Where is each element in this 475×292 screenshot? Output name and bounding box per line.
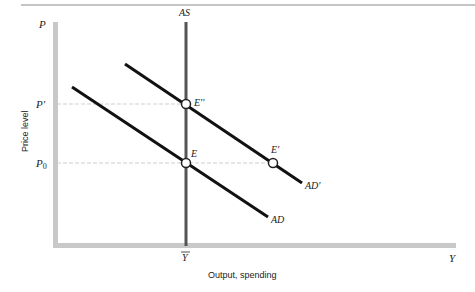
ad-label: AD (270, 214, 285, 225)
ybar-tick: Y (182, 252, 189, 263)
ad-as-diagram: P AS P' P0 E'' E E' AD' AD Y Y Output, s… (0, 0, 475, 292)
ad-prime-label: AD' (304, 180, 321, 191)
p0-tick-sub: 0 (43, 162, 47, 171)
ad-curve (72, 87, 268, 217)
e-label: E (190, 148, 197, 159)
y-axis-symbol: P (38, 18, 46, 30)
y-axis (53, 22, 58, 247)
point-e-double-prime (182, 100, 191, 109)
e-prime-label: E' (270, 144, 280, 155)
p0-tick: P0 (35, 157, 47, 171)
y-axis-label: Price level (20, 110, 30, 152)
p-prime-tick: P' (35, 98, 46, 110)
x-axis-symbol: Y (449, 252, 457, 264)
point-e (182, 159, 191, 168)
point-e-prime (269, 159, 278, 168)
x-axis (53, 243, 456, 248)
e-double-prime-label: E'' (193, 97, 205, 108)
as-label: AS (178, 7, 190, 18)
x-axis-label: Output, spending (208, 270, 277, 280)
